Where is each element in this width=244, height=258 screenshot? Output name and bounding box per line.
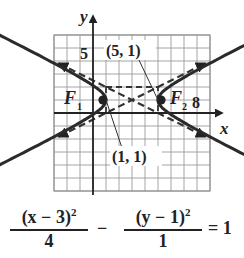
- y-axis-label: y: [78, 7, 88, 26]
- focus1-letter: F: [63, 88, 76, 108]
- term1-numerator-text: (x − 3): [22, 207, 71, 227]
- leader-line-vertex-right: [138, 58, 158, 100]
- focus1-subscript: 1: [77, 101, 82, 112]
- term1-numerator: (x − 3)2: [10, 206, 88, 231]
- term2-denominator: 1: [124, 231, 202, 252]
- term2-exponent: 2: [185, 206, 191, 218]
- term2-numerator-text: (y − 1): [136, 207, 185, 227]
- term1-exponent: 2: [71, 206, 77, 218]
- x-axis-label: x: [219, 119, 229, 138]
- vertex-left-label: (1, 1): [112, 148, 147, 166]
- x-tick-label-8: 8: [192, 94, 200, 111]
- focus2-subscript: 2: [182, 101, 187, 112]
- term2-numerator: (y − 1)2: [124, 206, 202, 231]
- term2-fraction: (y − 1)2 1: [124, 206, 202, 252]
- vertex-right-label: (5, 1): [106, 42, 141, 60]
- y-tick-label-5: 5: [80, 45, 88, 62]
- term1-denominator: 4: [10, 231, 88, 252]
- term1-fraction: (x − 3)2 4: [10, 206, 88, 252]
- focus2-letter: F: [169, 88, 182, 108]
- equals-one: = 1: [208, 218, 232, 239]
- minus-sign: −: [97, 218, 107, 239]
